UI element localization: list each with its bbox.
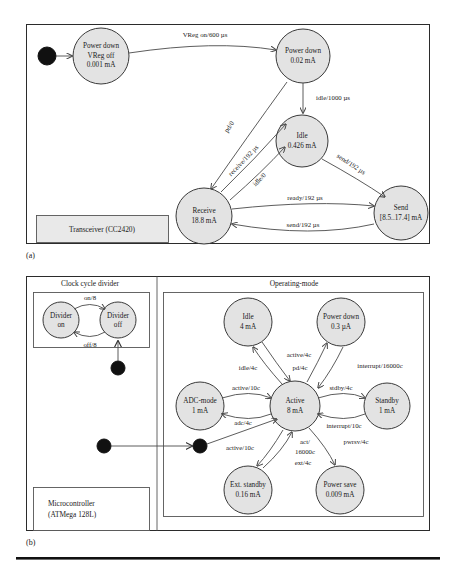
edge-pwrsv-4c: pwrsv/4c — [309, 428, 368, 465]
edge-idle-1000: idle/1000 µs — [303, 83, 350, 113]
state-line-2: 18.8 mA — [191, 217, 217, 225]
edge-label: on/8 — [84, 294, 97, 301]
edge-label: pwrsv/4c — [344, 438, 369, 445]
divider-initial-state — [111, 341, 125, 375]
initial-dot-icon-inner — [193, 439, 207, 453]
state-line-2: VReg off — [88, 52, 115, 60]
edge-off-8: off/8 — [74, 332, 105, 348]
state-line-2: 1 mA — [192, 407, 209, 415]
state-receive[interactable]: Receive 18.8 mA — [176, 188, 232, 244]
edge-label: pd/0 — [223, 119, 236, 133]
state-line-2: on — [57, 321, 65, 329]
initial-dot-icon — [38, 47, 56, 65]
state-circle — [316, 466, 364, 514]
edge-label: idle/1000 µs — [316, 94, 350, 101]
state-power-down[interactable]: Power down 0.02 mA — [276, 29, 330, 83]
state-line-2: 0.3 µA — [331, 323, 352, 331]
state-line-2: 8 mA — [287, 407, 304, 415]
state-line-2: [8.5..17.4] mA — [380, 214, 423, 222]
state-line-1: ADC-mode — [183, 397, 217, 405]
edge-label: ext/4c — [295, 459, 312, 466]
edge-label: interrupt/10c — [326, 422, 361, 429]
edge-interrupt-10c: interrupt/10c — [318, 414, 365, 429]
panel-b-component-label: Microcontroller (ATMega 128L) — [34, 488, 150, 531]
state-b-adc-mode[interactable]: ADC-mode 1 mA — [176, 382, 224, 430]
edge-label: interrupt/16000c — [357, 362, 402, 369]
panel-a: Transceiver (CC2420) Power down VReg off… — [26, 25, 430, 261]
initial-dot-icon — [97, 439, 111, 453]
state-b-ext-standby[interactable]: Ext. standby 0.16 mA — [224, 466, 272, 514]
state-circle — [176, 382, 224, 430]
panel-b: Clock cycle divider Operating-mode Divid… — [26, 277, 430, 548]
state-b-standby[interactable]: Standby 1 mA — [364, 383, 410, 429]
state-line-1: Power down — [285, 47, 322, 55]
edge-label: receive/192 µs — [227, 143, 260, 177]
state-circle — [374, 186, 428, 240]
clock-divider-region: Divider on Divider off on/8 off/8 — [34, 293, 150, 349]
state-b-idle[interactable]: Idle 4 mA — [224, 298, 272, 346]
state-circle — [100, 302, 136, 338]
bottom-rule — [16, 557, 440, 560]
edge-label: active/10c — [232, 384, 260, 391]
state-divider-off[interactable]: Divider off — [100, 302, 136, 338]
edge-label: idle/0 — [251, 171, 267, 187]
edge-label: active/4c — [287, 351, 312, 358]
clock-divider-region-title: Clock cycle divider — [61, 279, 119, 288]
edge-label: idle/4c — [239, 364, 258, 371]
state-line-1: Idle — [242, 313, 253, 321]
operating-mode-region-title: Operating-mode — [270, 279, 319, 288]
state-b-active[interactable]: Active 8 mA — [270, 381, 320, 431]
state-line-3: 0.001 mA — [87, 61, 117, 69]
edge-send-192-idle-to-send: send/192 µs — [322, 152, 385, 197]
state-line-1: Power down — [323, 313, 360, 321]
panel-a-initial-state — [38, 47, 72, 65]
edge-label: stdby/4c — [329, 384, 352, 391]
state-line-1: Ext. standby — [230, 481, 266, 489]
state-line-2: 0.02 mA — [290, 57, 316, 65]
state-circle — [224, 466, 272, 514]
state-b-power-down[interactable]: Power down 0.3 µA — [317, 298, 365, 346]
panel-a-component-label: Transceiver (CC2420) — [37, 216, 169, 243]
edge-label: send/192 µs — [336, 152, 368, 176]
state-line-2: 0.426 mA — [288, 142, 318, 150]
state-line-1: Power down — [83, 42, 120, 50]
state-circle — [176, 188, 232, 244]
edge-label: VReg on/600 µs — [183, 31, 228, 38]
microcontroller-label-line1: Microcontroller — [48, 499, 95, 508]
state-line-1: Send — [394, 204, 409, 212]
edge-label: active/10c — [226, 444, 254, 451]
state-circle — [270, 381, 320, 431]
edge-active-10c-adc: active/10c — [222, 384, 271, 398]
edge-ready-192: ready/192 µs — [232, 194, 374, 209]
transceiver-label-text: Transceiver (CC2420) — [69, 225, 136, 234]
state-line-2: 0.16 mA — [235, 491, 261, 499]
state-line-2: 4 mA — [240, 323, 257, 331]
edge-label: off/8 — [83, 341, 97, 348]
edge-on-8: on/8 — [74, 294, 105, 309]
edge-label: pd/4c — [292, 364, 307, 371]
subfigure-a-label: (a) — [26, 251, 35, 260]
state-b-power-save[interactable]: Power save 0.009 mA — [316, 466, 364, 514]
state-circle — [224, 298, 272, 346]
edge-send-192-back: send/192 µs — [232, 221, 374, 231]
microcontroller-label-line2: (ATMega 128L) — [48, 510, 97, 519]
state-idle[interactable]: Idle 0.426 mA — [276, 115, 328, 167]
state-divider-on[interactable]: Divider on — [43, 302, 79, 338]
state-circle — [43, 302, 79, 338]
state-line-1: Standby — [375, 397, 399, 405]
edge-label: send/192 µs — [287, 221, 320, 228]
state-line-1: Active — [285, 397, 304, 405]
state-circle — [276, 115, 328, 167]
state-line-1: Power save — [324, 481, 357, 489]
state-send[interactable]: Send [8.5..17.4] mA — [374, 186, 428, 240]
state-line-1: Idle — [296, 132, 307, 140]
state-machine-figure: Transceiver (CC2420) Power down VReg off… — [0, 0, 456, 567]
state-pd-vreg-off[interactable]: Power down VReg off 0.001 mA — [73, 28, 129, 84]
state-circle — [276, 29, 330, 83]
initial-dot-icon — [111, 361, 125, 375]
state-line-2: 0.009 mA — [326, 491, 356, 499]
edge-label: adc/4c — [234, 419, 252, 426]
edge-label: act/ — [300, 438, 310, 445]
state-circle — [364, 383, 410, 429]
edge-label-line2: 16000c — [295, 448, 315, 455]
